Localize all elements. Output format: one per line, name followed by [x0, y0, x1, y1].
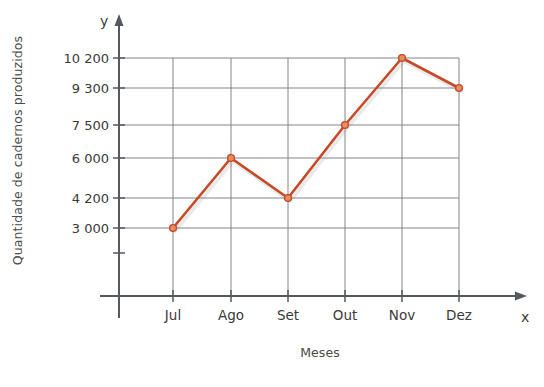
- y-tick-label: 10 200: [64, 51, 110, 66]
- data-line: [173, 58, 459, 228]
- y-axis-letter: y: [100, 13, 108, 29]
- y-tick-label: 3 000: [72, 221, 109, 236]
- data-point-marker: [456, 85, 463, 92]
- data-point-marker: [399, 55, 406, 62]
- y-tick-label: 9 300: [72, 81, 109, 96]
- x-axis: [100, 292, 527, 301]
- data-point-marker: [285, 195, 292, 202]
- data-line-shadow: [175, 61, 461, 231]
- y-tick-label: 7 500: [72, 118, 109, 133]
- y-axis: [115, 14, 124, 318]
- x-tick-label: Nov: [389, 307, 415, 323]
- y-tick-label: 6 000: [72, 151, 109, 166]
- x-tick-labels: Jul Ago Set Out Nov Dez: [164, 307, 472, 323]
- data-point-marker: [342, 122, 349, 129]
- x-tick-label: Out: [333, 307, 357, 323]
- y-tick-label: 4 200: [72, 191, 109, 206]
- data-point-markers: [170, 55, 463, 232]
- chart-container: Quantidade de cadernos produzidos Meses: [0, 0, 544, 387]
- y-tick-labels: 10 200 9 300 7 500 6 000 4 200 3 000: [64, 51, 110, 236]
- line-chart-plot: 10 200 9 300 7 500 6 000 4 200 3 000 Jul…: [0, 0, 544, 387]
- x-tick-label: Dez: [446, 307, 472, 323]
- data-point-marker: [170, 225, 177, 232]
- x-tick-label: Ago: [218, 307, 244, 323]
- x-tick-label: Jul: [164, 307, 181, 323]
- data-point-marker: [228, 155, 235, 162]
- x-axis-letter: x: [521, 309, 529, 325]
- x-tick-label: Set: [277, 307, 299, 323]
